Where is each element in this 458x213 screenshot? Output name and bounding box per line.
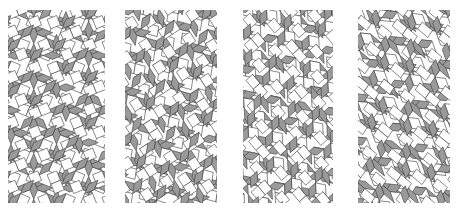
square-tile — [210, 120, 217, 134]
rhomb-tile — [290, 136, 297, 152]
tile-group — [358, 10, 450, 203]
rhomb-tile — [125, 105, 132, 124]
tiling-panel-1 — [8, 10, 105, 203]
rhomb-tile — [248, 110, 255, 126]
rhomb-tile — [291, 162, 298, 178]
square-tile — [328, 82, 333, 94]
rhomb-tile — [157, 10, 164, 28]
square-tile — [358, 154, 359, 166]
rhomb-tile — [288, 101, 295, 117]
rhomb-tile — [287, 75, 294, 91]
rhomb-tile — [272, 115, 279, 131]
rhomb-tile — [156, 185, 166, 200]
tiling-svg-1 — [8, 10, 105, 203]
rhomb-tile — [30, 154, 38, 173]
square-tile — [448, 173, 450, 188]
tile-group — [125, 10, 217, 203]
square-tile — [102, 38, 105, 51]
rhomb-tile — [98, 148, 105, 161]
rhomb-tile — [312, 105, 319, 121]
rhomb-tile — [245, 49, 252, 65]
rhomb-tile — [182, 121, 189, 140]
rhomb-tile — [303, 61, 310, 77]
square-tile — [379, 201, 393, 203]
rhomb-tile — [315, 166, 322, 182]
rhomb-tile — [179, 42, 189, 57]
rhomb-tile — [148, 67, 155, 86]
tiling-panel-4 — [358, 10, 450, 203]
rhomb-tile — [203, 154, 213, 169]
rhomb-tile — [284, 14, 291, 30]
rhomb-tile — [171, 74, 178, 93]
tiling-panel-3 — [243, 10, 333, 203]
rhomb-tile — [324, 10, 331, 21]
tile-group — [243, 10, 333, 203]
tile-group — [8, 10, 105, 203]
rhomb-tile — [358, 94, 368, 102]
tiling-svg-3 — [243, 10, 333, 203]
rhomb-tile — [30, 199, 38, 203]
tiling-panel-2 — [125, 10, 217, 203]
rhomb-tile — [269, 54, 276, 70]
tiling-svg-4 — [358, 10, 450, 203]
tiling-svg-2 — [125, 10, 217, 203]
square-tile — [215, 86, 217, 99]
rhomb-tile — [216, 174, 217, 193]
rhomb-tile — [408, 10, 417, 13]
square-tile — [104, 93, 105, 106]
rhomb-tile — [85, 21, 93, 40]
square-tile — [102, 194, 105, 203]
rhomb-tile — [125, 26, 131, 41]
rhomb-tile — [173, 180, 180, 199]
square-tile — [332, 177, 333, 192]
